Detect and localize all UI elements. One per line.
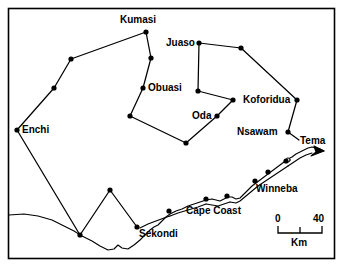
- label-oda: Oda: [192, 110, 211, 121]
- label-sekondi: Sekondi: [139, 228, 178, 239]
- node-southwest-peak: [107, 187, 112, 192]
- node-kumasi-nw: [68, 56, 73, 61]
- node-oda-northeast: [230, 97, 235, 102]
- label-tema: Tema: [300, 135, 325, 146]
- node-coast-1: [166, 208, 171, 213]
- label-juaso: Juaso: [166, 37, 195, 48]
- node-juaso-east: [238, 45, 243, 50]
- node-koforidua: [294, 97, 299, 102]
- label-enchi: Enchi: [22, 124, 49, 135]
- node-enchi: [14, 127, 19, 132]
- scale-bar-unit-label: Km: [291, 237, 307, 248]
- node-coast-5: [283, 158, 288, 163]
- node-coast-2: [203, 196, 208, 201]
- label-koforidua: Koforidua: [243, 94, 290, 105]
- map-figure: Kumasi Juaso Obuasi Oda Koforidua Nsawam…: [0, 0, 346, 270]
- node-obuasi-south: [127, 113, 132, 118]
- node-coast-4: [265, 169, 270, 174]
- node-kumasi: [143, 29, 148, 34]
- node-juaso-south: [195, 88, 200, 93]
- label-kumasi: Kumasi: [120, 14, 156, 25]
- node-basin-south: [183, 140, 188, 145]
- label-obuasi: Obuasi: [148, 82, 182, 93]
- node-coast-3: [224, 193, 229, 198]
- label-cape-coast: Cape Coast: [186, 205, 241, 216]
- node-southwest-coast: [77, 232, 82, 237]
- node-nsawam: [285, 129, 290, 134]
- node-juaso: [196, 40, 201, 45]
- node-west-mid: [51, 85, 56, 90]
- node-kumasi-south: [148, 55, 153, 60]
- scale-bar-start-label: 0: [275, 213, 281, 224]
- label-winneba: Winneba: [256, 183, 298, 194]
- scale-bar-end-label: 40: [313, 213, 324, 224]
- node-oda: [214, 113, 219, 118]
- label-nsawam: Nsawam: [237, 126, 278, 137]
- node-obuasi: [140, 85, 145, 90]
